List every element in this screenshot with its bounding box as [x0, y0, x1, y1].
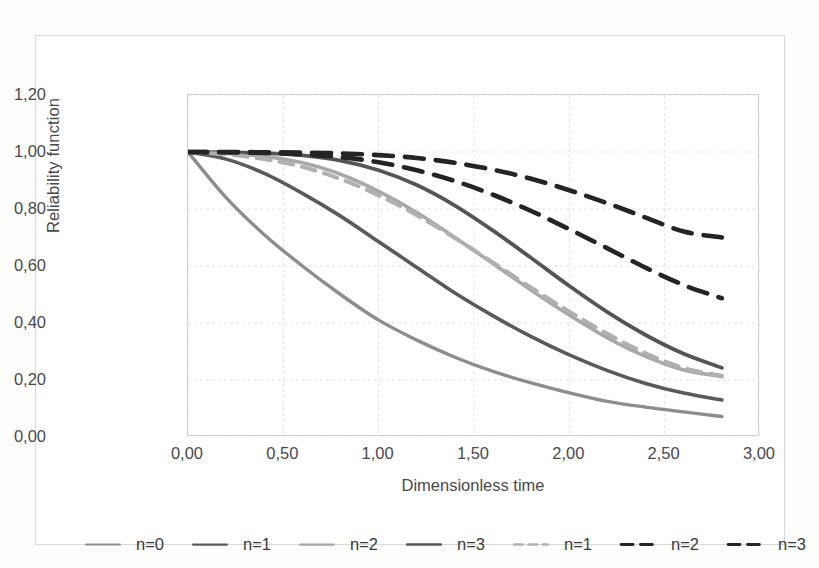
legend-swatch-n=0 — [76, 542, 130, 547]
x-tick-label: 0,50 — [242, 444, 322, 463]
legend-item-n=0[interactable]: n=0 — [76, 535, 164, 554]
legend-swatch-n=2 — [290, 542, 344, 547]
legend-swatch-n=2-dashed — [611, 542, 665, 547]
x-tick-label: 1,00 — [338, 444, 418, 463]
legend-item-n=2-dashed[interactable]: n=2 — [611, 535, 699, 554]
x-tick-label: 0,00 — [147, 444, 227, 463]
x-tick-label: 2,50 — [624, 444, 704, 463]
legend-label: n=2 — [350, 535, 378, 554]
legend-item-n=3[interactable]: n=3 — [397, 535, 485, 554]
y-axis-title: Reliability function — [44, 46, 63, 286]
x-axis-title: Dimensionless time — [187, 476, 759, 495]
legend-item-n=1[interactable]: n=1 — [183, 535, 271, 554]
chart-legend: n=0n=1n=2n=3n=1n=2n=3 — [76, 529, 806, 559]
legend-swatch-n=3-dashed — [718, 542, 772, 547]
y-tick-label: 0,40 — [0, 313, 46, 332]
legend-label: n=1 — [564, 535, 592, 554]
series-line-n=0 — [188, 152, 722, 416]
legend-label: n=3 — [778, 535, 806, 554]
y-tick-label: 1,00 — [0, 142, 46, 161]
legend-swatch-n=1 — [183, 542, 237, 547]
series-line-n=3 — [188, 152, 722, 368]
legend-item-n=1-dashed[interactable]: n=1 — [504, 535, 592, 554]
chart-figure: Reliability function 0,000,200,400,600,8… — [0, 0, 819, 568]
plot-canvas — [188, 95, 760, 437]
legend-swatch-n=3 — [397, 542, 451, 547]
y-tick-label: 1,20 — [0, 85, 46, 104]
legend-item-n=3-dashed[interactable]: n=3 — [718, 535, 806, 554]
x-tick-label: 1,50 — [433, 444, 513, 463]
legend-label: n=3 — [457, 535, 485, 554]
legend-swatch-n=1-dashed — [504, 542, 558, 547]
series-line-n=1 — [188, 152, 722, 400]
legend-label: n=2 — [671, 535, 699, 554]
y-tick-label: 0,60 — [0, 256, 46, 275]
series-line-n=3-dashed — [188, 152, 722, 238]
legend-item-n=2[interactable]: n=2 — [290, 535, 378, 554]
legend-label: n=1 — [243, 535, 271, 554]
x-tick-label: 2,00 — [528, 444, 608, 463]
x-tick-label: 3,00 — [719, 444, 799, 463]
plot-area — [187, 94, 759, 436]
y-tick-label: 0,80 — [0, 199, 46, 218]
series-lines — [188, 152, 722, 417]
chart-outer-frame: Reliability function 0,000,200,400,600,8… — [35, 35, 785, 545]
y-tick-label: 0,00 — [0, 427, 46, 446]
legend-label: n=0 — [136, 535, 164, 554]
y-tick-label: 0,20 — [0, 370, 46, 389]
